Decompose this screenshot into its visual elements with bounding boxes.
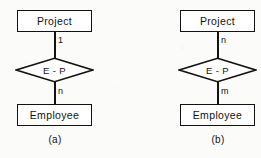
caption-b: (b) — [163, 134, 261, 145]
connector-project-relationship-a — [54, 32, 56, 59]
relationship-diamond-b: E - P — [178, 57, 257, 83]
entity-label-employee-b: Employee — [193, 109, 243, 121]
connector-relationship-employee-a — [54, 81, 56, 104]
entity-label-project-b: Project — [200, 15, 235, 27]
cardinality-top-a: 1 — [58, 36, 63, 45]
caption-a: (a) — [0, 134, 110, 145]
connector-relationship-employee-b — [217, 81, 219, 104]
entity-box-project-a: Project — [17, 10, 92, 32]
connector-project-relationship-b — [217, 32, 219, 59]
diagram-b: Project n E - P m Employee (b) — [163, 0, 261, 158]
er-diagram-figure: Project 1 E - P n Employee (a) Project n — [0, 0, 261, 158]
relationship-label-b: E - P — [178, 57, 257, 83]
relationship-label-a: E - P — [15, 57, 94, 83]
entity-label-employee-a: Employee — [30, 109, 80, 121]
cardinality-top-b: n — [221, 36, 226, 45]
entity-box-employee-b: Employee — [180, 104, 255, 126]
entity-label-project-a: Project — [37, 15, 72, 27]
entity-box-project-b: Project — [180, 10, 255, 32]
cardinality-bottom-a: n — [58, 87, 63, 96]
cardinality-bottom-b: m — [221, 87, 229, 96]
relationship-diamond-a: E - P — [15, 57, 94, 83]
diagram-a: Project 1 E - P n Employee (a) — [0, 0, 131, 158]
entity-box-employee-a: Employee — [17, 104, 92, 126]
